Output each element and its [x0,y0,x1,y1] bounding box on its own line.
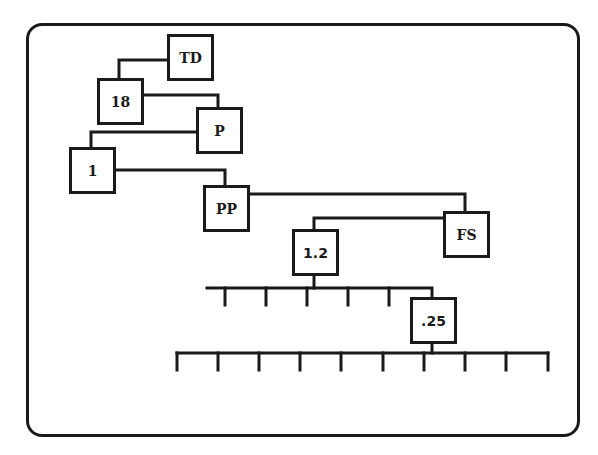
node-point-25: .25 [410,297,457,344]
connector-lines [0,0,598,455]
node-1: 1 [69,147,116,194]
node-p: P [196,107,243,154]
node-pp: PP [203,185,250,232]
node-fs: FS [443,211,490,258]
node-18: 18 [97,78,144,125]
node-td: TD [167,34,214,81]
node-1-2: 1.2 [292,229,339,276]
